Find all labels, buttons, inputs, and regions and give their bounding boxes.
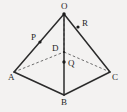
point-label-P: P (31, 33, 36, 42)
point-label-R: R (82, 19, 88, 28)
vertex-label-O: O (61, 2, 68, 11)
vertex-label-D: D (52, 44, 59, 53)
edge-AD (14, 52, 64, 72)
point-Q-dot (62, 60, 65, 63)
edge-BC (64, 72, 110, 95)
pyramid-svg (0, 0, 127, 112)
edge-AB (14, 72, 64, 95)
point-O-dot (62, 12, 65, 15)
vertex-label-A: A (8, 73, 15, 82)
vertex-label-B: B (61, 98, 67, 107)
visible-edges-group (14, 14, 110, 95)
point-D-dot (63, 51, 65, 53)
point-label-Q: Q (68, 59, 75, 68)
vertex-label-C: C (112, 73, 118, 82)
geometry-figure: O A B C D P R Q (0, 0, 127, 112)
point-P-dot (38, 40, 41, 43)
hidden-edges-group (14, 14, 110, 72)
point-R-dot (76, 25, 79, 28)
